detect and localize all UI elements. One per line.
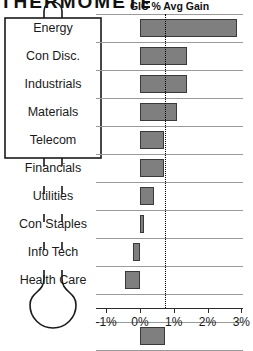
grid-line	[96, 42, 243, 43]
sector-label-con-staples: Con Staples	[0, 210, 106, 238]
x-tick-label: -1%	[95, 315, 116, 329]
grid-line	[96, 266, 243, 267]
bar-materials	[140, 103, 177, 121]
bar-industrials	[140, 75, 187, 93]
bar-financials	[140, 159, 164, 177]
sector-label-list: Energy Con Disc. Industrials Materials T…	[0, 14, 106, 294]
bar-con-staples	[140, 215, 144, 233]
x-axis-line	[96, 308, 243, 309]
sector-label-materials: Materials	[0, 98, 106, 126]
grid-line	[96, 238, 243, 239]
grid-line	[96, 70, 243, 71]
grid-line	[96, 14, 243, 15]
x-tick-label: 3%	[233, 315, 250, 329]
x-tick	[241, 308, 242, 313]
sector-label-info-tech: Info Tech	[0, 238, 106, 266]
bar-utilities	[140, 187, 154, 205]
chart-title: GIC % Avg Gain	[96, 0, 243, 12]
average-reference-line	[165, 14, 166, 308]
bar-energy	[140, 19, 237, 37]
sector-label-industrials: Industrials	[0, 70, 106, 98]
grid-line	[96, 154, 243, 155]
sector-label-energy: Energy	[0, 14, 106, 42]
sector-label-financials: Financials	[0, 154, 106, 182]
x-tick	[140, 308, 141, 313]
x-tick	[208, 308, 209, 313]
sector-label-con-disc: Con Disc.	[0, 42, 106, 70]
sector-label-utilities: Utilities	[0, 182, 106, 210]
grid-line	[96, 126, 243, 127]
x-tick-label: 0%	[131, 315, 148, 329]
x-tick-label: 1%	[165, 315, 182, 329]
bar-telecom	[140, 131, 164, 149]
grid-line	[96, 98, 243, 99]
grid-line	[96, 210, 243, 211]
grid-line	[96, 294, 243, 295]
sector-label-health-care: Health Care	[0, 266, 106, 294]
grid-line	[96, 182, 243, 183]
x-tick	[106, 308, 107, 313]
bar-average	[140, 327, 165, 345]
bar-info-tech	[133, 243, 140, 261]
bar-plot-area	[96, 14, 243, 308]
bar-health-care	[125, 271, 140, 289]
x-tick	[174, 308, 175, 313]
sector-label-telecom: Telecom	[0, 126, 106, 154]
x-tick-label: 2%	[199, 315, 216, 329]
bar-con-disc	[140, 47, 187, 65]
